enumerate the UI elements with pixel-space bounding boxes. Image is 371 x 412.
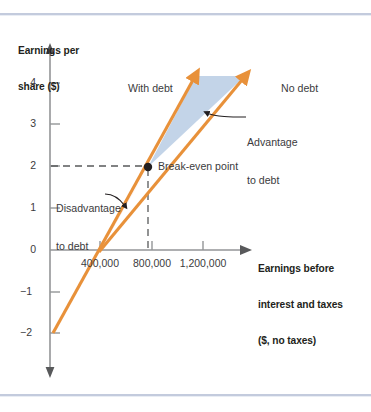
x-axis-title-line3: ($, no taxes) (258, 335, 343, 347)
x-tick-label-1200000: 1,200,000 (170, 257, 236, 269)
y-tick-label-minus1: −1 (16, 285, 32, 297)
x-axis-title-line2: interest and taxes (258, 299, 343, 311)
y-tick-label-0: 0 (20, 243, 36, 255)
chart-figure: Earnings per share ($) Earnings before i… (0, 0, 371, 412)
y-tick-label-4: 4 (20, 76, 36, 88)
annotation-disadvantage-to-debt: Disadvantage to debt (56, 177, 121, 277)
break-even-point-marker (144, 163, 152, 171)
annotation-break-even-point: Break-even point (158, 160, 238, 173)
annotation-advantage-line2: to debt (247, 174, 298, 187)
y-tick-label-1: 1 (20, 201, 36, 213)
y-axis-title: Earnings per share ($) (18, 21, 79, 117)
y-tick-label-2: 2 (20, 159, 36, 171)
annotation-advantage-to-debt: Advantage to debt (247, 111, 298, 211)
x-axis-title-line1: Earnings before (258, 263, 343, 275)
y-tick-label-minus2: −2 (16, 326, 32, 338)
annotation-disadvantage-line2: to debt (56, 240, 121, 253)
annotation-with-debt: With debt (128, 82, 173, 95)
annotation-no-debt: No debt (281, 82, 318, 95)
y-tick-label-3: 3 (20, 117, 36, 129)
annotation-disadvantage-line1: Disadvantage (56, 202, 121, 215)
x-axis-title: Earnings before interest and taxes ($, n… (258, 239, 343, 371)
y-axis-title-line1: Earnings per (18, 45, 79, 57)
annotation-advantage-line1: Advantage (247, 136, 298, 149)
